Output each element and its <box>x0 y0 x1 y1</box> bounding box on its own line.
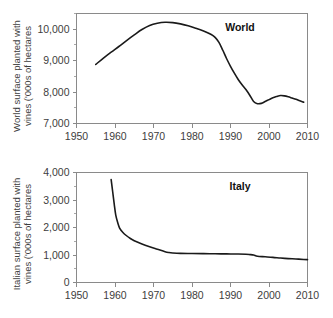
italy-y-axis-title-line2: vines ('000s of hectares <box>22 184 33 284</box>
chart-panel-world: World surface planted with vines ('000s … <box>0 0 333 158</box>
italy-x-tick-labels: 1950196019701980199020002010 <box>65 289 320 301</box>
italy-x-tick-label: 2000 <box>257 289 281 301</box>
world-x-tick-labels: 1950196019701980199020002010 <box>65 130 320 142</box>
italy-tick-marks <box>73 173 308 287</box>
italy-y-tick-label: 4,000 <box>43 166 69 178</box>
world-series-line <box>96 22 304 104</box>
vineyard-surface-figure: World surface planted with vines ('000s … <box>0 0 333 318</box>
italy-x-tick-label: 1990 <box>219 289 243 301</box>
world-x-tick-label: 2010 <box>296 130 320 142</box>
world-y-tick-label: 8,000 <box>43 86 69 98</box>
world-y-tick-label: 7,000 <box>43 117 69 129</box>
italy-y-tick-label: 0 <box>64 276 70 288</box>
world-x-tick-label: 1970 <box>142 130 166 142</box>
italy-panel-label: Italy <box>229 180 250 192</box>
world-panel-label: World <box>225 21 255 33</box>
italy-plot-frame <box>77 173 308 283</box>
italy-chart-svg: Italian surface planted with vines ('000… <box>0 158 333 318</box>
world-y-tick-label: 9,000 <box>43 54 69 66</box>
italy-y-tick-label: 3,000 <box>43 194 69 206</box>
italy-y-tick-labels: 01,0002,0003,0004,000 <box>43 166 69 288</box>
world-x-tick-label: 1960 <box>103 130 127 142</box>
world-y-axis-title-line1: World surface planted with <box>11 20 22 132</box>
world-plot-frame <box>77 14 308 124</box>
world-y-tick-labels: 7,0008,0009,00010,000 <box>37 23 69 129</box>
world-chart-svg: World surface planted with vines ('000s … <box>0 0 333 158</box>
italy-x-tick-label: 1960 <box>103 289 127 301</box>
italy-y-axis-title: Italian surface planted with vines ('000… <box>11 178 33 290</box>
italy-y-axis-title-line1: Italian surface planted with <box>11 178 22 290</box>
world-x-tick-label: 2000 <box>257 130 281 142</box>
italy-x-tick-label: 1980 <box>180 289 204 301</box>
world-y-axis-title: World surface planted with vines ('000s … <box>11 20 33 132</box>
italy-x-tick-label: 2010 <box>296 289 320 301</box>
world-x-tick-label: 1950 <box>65 130 89 142</box>
world-tick-marks <box>73 14 308 128</box>
world-y-axis-title-line2: vines ('000s of hectares <box>22 26 33 126</box>
italy-x-tick-label: 1950 <box>65 289 89 301</box>
world-x-tick-label: 1980 <box>180 130 204 142</box>
italy-x-tick-label: 1970 <box>142 289 166 301</box>
italy-series-line <box>111 180 307 260</box>
world-y-tick-label: 10,000 <box>37 23 69 35</box>
italy-y-tick-label: 2,000 <box>43 221 69 233</box>
world-x-tick-label: 1990 <box>219 130 243 142</box>
chart-panel-italy: Italian surface planted with vines ('000… <box>0 158 333 318</box>
italy-y-tick-label: 1,000 <box>43 249 69 261</box>
